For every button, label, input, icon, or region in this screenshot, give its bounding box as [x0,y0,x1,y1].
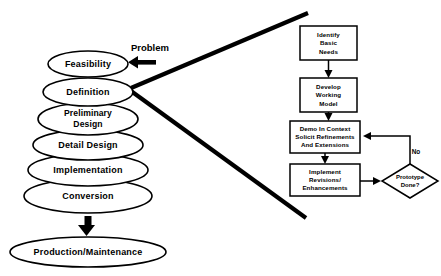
lifecycle-stage-label: Preliminary [64,108,112,118]
step-label-line2: Solicit Refinements [295,133,355,140]
left-arrow-icon [128,56,156,69]
lifecycle-stage-label-line2: Design [73,119,102,129]
prototype-decision-done[interactable]: Prototype Done? [382,164,438,198]
lifecycle-stage-feasibility[interactable]: Feasibility [48,51,128,77]
explosion-line-lower [131,91,306,218]
lifecycle-stage-label: Implementation [53,165,122,175]
lifecycle-stage-stack: Conversion Implementation Detail Design … [24,51,152,213]
step-label-line3: Model [319,100,338,107]
prototype-step-implement-revisions[interactable]: Implement Revisions/ Enhancements [290,164,360,196]
diagram-canvas: Conversion Implementation Detail Design … [0,0,441,276]
decision-diamond [382,164,438,198]
step-label-line3: Enhancements [302,184,348,191]
step-label-line1: Implement [309,168,341,175]
step-label-line1: Demo In Context [300,125,351,132]
prototype-step-demo-in-context[interactable]: Demo In Context Solicit Refinements And … [290,121,360,153]
problem-annotation: Problem [128,42,169,69]
step-label-line2: Basic [320,39,337,46]
lifecycle-stage-label: Conversion [62,191,114,201]
decision-label-line1: Prototype [396,174,425,180]
prototype-step-develop-working-model[interactable]: Develop Working Model [300,78,357,112]
lifecycle-stage-label: Definition [66,87,110,97]
lifecycle-stage-label: Detail Design [58,140,118,150]
step-label-line1: Develop [316,83,341,90]
lifecycle-outcome-production-maintenance[interactable]: Production/Maintenance [10,237,166,267]
step-label-line2: Revisions/ [309,176,341,183]
down-arrow-icon [78,216,95,236]
outcome-label: Production/Maintenance [34,247,143,257]
step-label-line1: Identify [317,31,340,38]
step-label-line2: Working [316,91,341,98]
lifecycle-prototyping-diagram: Conversion Implementation Detail Design … [0,0,441,276]
decision-label-line2: Done? [401,182,420,188]
step-label-line3: And Extensions [301,141,350,148]
flow-arrow-to-decision [360,177,381,185]
step-label-line3: Needs [319,48,339,55]
lifecycle-stage-label: Feasibility [65,59,111,69]
prototyping-flowchart: Identify Basic Needs Develop Working Mod… [290,26,438,198]
lifecycle-stage-definition[interactable]: Definition [43,78,133,106]
prototype-step-identify-basic-needs[interactable]: Identify Basic Needs [300,26,357,60]
feedback-edge-label: No [412,148,421,155]
problem-label: Problem [131,42,169,53]
flow-arrow-1 [325,60,333,78]
feedback-loop-no: No [363,132,420,164]
flow-arrow-2 [325,112,333,121]
lifecycle-stage-preliminary-design[interactable]: Preliminary Design [38,103,138,135]
flow-arrow-3 [321,153,329,164]
